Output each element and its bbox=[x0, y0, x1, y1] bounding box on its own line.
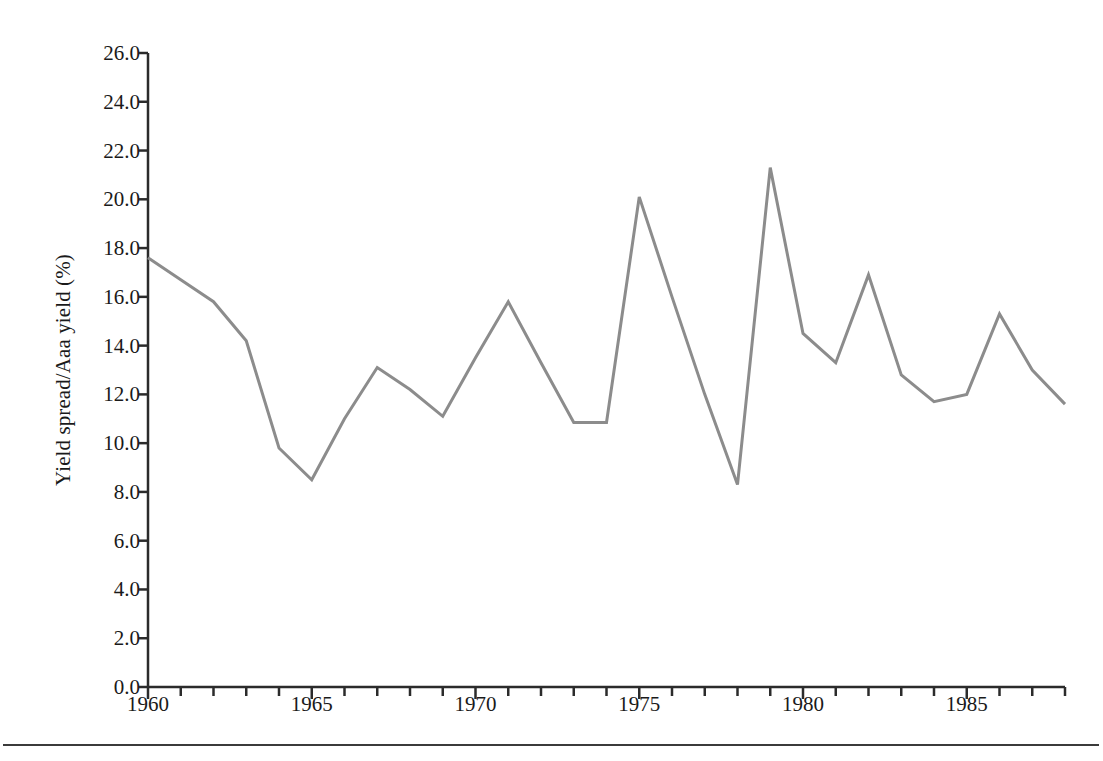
axis-lines bbox=[148, 53, 1065, 687]
line-plot bbox=[0, 0, 1103, 761]
x-axis-ticks bbox=[148, 687, 1065, 699]
page-bottom-rule bbox=[3, 744, 1099, 746]
data-series-line bbox=[148, 168, 1065, 485]
chart-figure: Yield spread/Aaa yield (%) 0.02.04.06.08… bbox=[0, 0, 1103, 761]
y-axis-ticks bbox=[139, 53, 148, 687]
